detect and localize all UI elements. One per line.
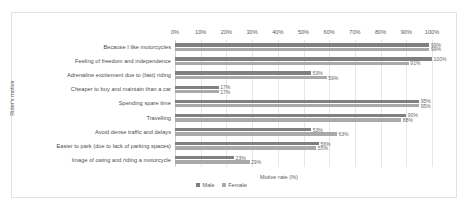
bar-value-label: 29%: [251, 159, 261, 165]
category-label: Image of owing and riding a motorcycle: [72, 157, 171, 163]
x-axis-tick-label: 0%: [171, 29, 179, 35]
chart-row: Avoid dense traffic and delays53%63%: [175, 125, 432, 139]
bar-value-label: 91%: [410, 60, 420, 66]
category-label: Cheaper to buy and maintain than a car: [71, 86, 171, 92]
bar-value-label: 88%: [403, 117, 413, 123]
chart-row: Cheaper to buy and maintain than a car17…: [175, 82, 432, 96]
x-axis-tick-label: 80%: [375, 29, 386, 35]
bar-value-label: 95%: [421, 103, 431, 109]
bar-male: 100%: [175, 57, 432, 60]
category-label: Spending spare time: [119, 100, 171, 106]
bar-value-label: 55%: [318, 145, 328, 151]
bar-female: 55%: [175, 146, 316, 149]
chart-legend: MaleFemale: [196, 182, 247, 188]
bar-female: 95%: [175, 104, 419, 107]
x-axis-tick-label: 100%: [425, 29, 439, 35]
bar-male: 99%: [175, 43, 429, 46]
bar-value-label: 59%: [328, 75, 338, 81]
chart-row: Image of owing and riding a motorcycle23…: [175, 153, 432, 167]
chart-row: Spending spare time95%95%: [175, 96, 432, 110]
chart-row: Adrenaline excitement due to (fast) ridi…: [175, 68, 432, 82]
legend-swatch-icon: [196, 183, 200, 187]
legend-item-male[interactable]: Male: [196, 182, 215, 188]
category-label: Because I like motorcycles: [103, 44, 171, 50]
bar-female: 99%: [175, 48, 429, 51]
legend-label: Male: [203, 182, 215, 188]
category-label: Feeling of freedom and independence: [75, 58, 171, 64]
chart-container: Rider's motive 0%10%20%30%40%50%60%70%80…: [0, 0, 467, 210]
bar-female: 59%: [175, 76, 327, 79]
bar-male: 95%: [175, 100, 419, 103]
x-axis-title: Motive rate (%): [260, 174, 298, 180]
plot-area: 0%10%20%30%40%50%60%70%80%90%100%Because…: [175, 40, 432, 167]
bar-value-label: 17%: [220, 89, 230, 95]
chart-row: Travelling90%88%: [175, 111, 432, 125]
bar-value-label: 100%: [434, 56, 447, 62]
x-axis-tick-label: 60%: [324, 29, 335, 35]
x-axis-tick-label: 20%: [221, 29, 232, 35]
x-axis-tick-label: 40%: [272, 29, 283, 35]
legend-swatch-icon: [222, 183, 226, 187]
x-axis-tick-label: 10%: [195, 29, 206, 35]
bar-female: 88%: [175, 118, 401, 121]
bar-value-label: 99%: [431, 46, 441, 52]
bar-value-label: 63%: [338, 131, 348, 137]
bar-male: 53%: [175, 128, 311, 131]
category-label: Avoid dense traffic and delays: [95, 129, 171, 135]
bar-female: 91%: [175, 62, 409, 65]
category-label: Adrenaline excitement due to (fast) ridi…: [67, 72, 171, 78]
x-axis-tick-label: 90%: [401, 29, 412, 35]
chart-row: Easier to park (due to lack of parking s…: [175, 139, 432, 153]
category-label: Easier to park (due to lack of parking s…: [56, 143, 171, 149]
legend-label: Female: [228, 182, 247, 188]
y-axis-title: Rider's motive: [9, 68, 15, 128]
chart-row: Feeling of freedom and independence100%9…: [175, 54, 432, 68]
bar-female: 17%: [175, 90, 219, 93]
bar-male: 23%: [175, 156, 234, 159]
bar-female: 63%: [175, 132, 337, 135]
legend-item-female[interactable]: Female: [222, 182, 247, 188]
chart-row: Because I like motorcycles99%99%: [175, 40, 432, 54]
bar-male: 17%: [175, 86, 219, 89]
x-axis-tick-label: 70%: [349, 29, 360, 35]
bar-male: 56%: [175, 142, 319, 145]
bar-male: 90%: [175, 114, 406, 117]
category-label: Travelling: [146, 115, 171, 121]
x-axis-tick-label: 50%: [298, 29, 309, 35]
x-axis-tick-label: 30%: [246, 29, 257, 35]
bar-male: 53%: [175, 71, 311, 74]
bar-female: 29%: [175, 160, 250, 163]
